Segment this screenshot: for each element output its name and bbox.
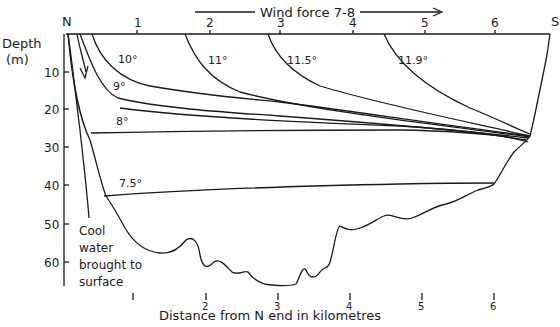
isotherm-8b (120, 108, 528, 142)
svg-text:20: 20 (44, 103, 59, 117)
svg-text:water: water (79, 241, 113, 255)
svg-text:30: 30 (44, 141, 59, 155)
svg-text:1: 1 (134, 16, 142, 30)
svg-text:7.5°: 7.5° (119, 177, 142, 190)
svg-text:2: 2 (206, 16, 214, 30)
wind-force-text: Wind force 7-8 (260, 5, 355, 20)
svg-text:5: 5 (418, 301, 424, 312)
svg-text:Cool: Cool (79, 224, 105, 238)
svg-text:brought to: brought to (79, 258, 142, 272)
y-axis-label-unit: (m) (6, 52, 29, 67)
svg-text:11°: 11° (208, 54, 228, 67)
svg-text:50: 50 (44, 218, 59, 232)
svg-text:11.5°: 11.5° (287, 54, 317, 67)
upwelling-line-inner (68, 34, 89, 218)
depth-ticks: 10 20 30 40 50 60 (44, 66, 69, 270)
svg-text:5: 5 (421, 16, 429, 30)
svg-text:40: 40 (44, 179, 59, 193)
svg-text:60: 60 (44, 256, 59, 270)
x-axis-label: Distance from N end in kilometres (159, 308, 381, 323)
svg-text:surface: surface (79, 275, 123, 289)
svg-text:6: 6 (490, 301, 496, 312)
isotherm-115 (268, 34, 530, 136)
svg-text:8°: 8° (116, 115, 129, 128)
svg-text:4: 4 (349, 16, 357, 30)
y-axis-label-depth: Depth (2, 36, 42, 51)
svg-text:3: 3 (277, 16, 285, 30)
svg-text:9°: 9° (113, 80, 126, 93)
arrow-up-icon (80, 66, 88, 78)
isotherm-10 (92, 34, 530, 136)
south-label: S (551, 14, 559, 29)
isotherm-75 (104, 183, 494, 196)
svg-text:10: 10 (44, 66, 59, 80)
svg-text:11.9°: 11.9° (398, 54, 428, 67)
lake-temperature-cross-section: Wind force 7-8 N S 1 2 3 4 5 6 Depth (m)… (0, 0, 560, 327)
svg-text:10°: 10° (118, 53, 138, 66)
lake-bottom-profile (68, 34, 550, 286)
wind-direction-label: Wind force 7-8 (195, 5, 442, 20)
svg-text:6: 6 (491, 16, 499, 30)
north-label: N (62, 14, 72, 29)
cool-water-annotation: Cool water brought to surface (79, 224, 142, 289)
